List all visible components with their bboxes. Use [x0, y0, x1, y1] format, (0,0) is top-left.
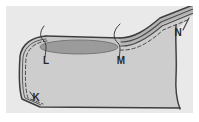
figure-root: K L M N	[0, 0, 199, 122]
dark-ellipse-lesion	[40, 40, 118, 54]
label-k: K	[32, 92, 40, 103]
label-n: N	[174, 27, 181, 38]
anatomical-diagram: K L M N	[0, 0, 199, 122]
label-m: M	[117, 55, 125, 66]
label-l: L	[43, 55, 49, 66]
